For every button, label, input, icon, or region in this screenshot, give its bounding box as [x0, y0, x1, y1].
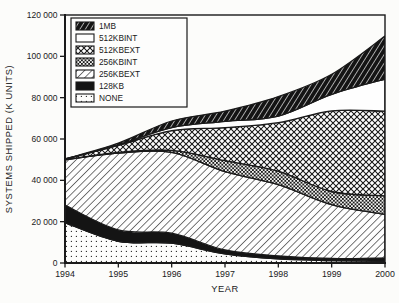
stacked-area-chart: 020 00040 00060 00080 000100 000120 0001…: [0, 0, 399, 303]
y-tick-label: 20 000: [32, 217, 58, 227]
x-tick-label: 2000: [375, 269, 395, 279]
y-axis-title: SYSTEMS SHIPPED (K UNITS): [4, 65, 14, 213]
y-axis-ticks: 020 00040 00060 00080 000100 000120 000: [27, 10, 65, 268]
legend-swatch-512kbext: [76, 46, 94, 54]
legend-label-256kbext: 256KBEXT: [99, 69, 140, 79]
y-tick-label: 80 000: [32, 93, 58, 103]
legend-swatch-none: [76, 94, 94, 102]
y-tick-label: 120 000: [27, 10, 58, 20]
x-tick-label: 1996: [162, 269, 182, 279]
legend-label-512kbint: 512KBINT: [99, 33, 137, 43]
legend-label-256kbint: 256KBINT: [99, 57, 137, 67]
x-axis-ticks: 1994199519961997199819992000: [55, 263, 395, 279]
x-tick-label: 1998: [269, 269, 289, 279]
y-tick-label: 100 000: [27, 51, 58, 61]
y-tick-label: 0: [53, 258, 58, 268]
legend-label-none: NONE: [99, 93, 123, 103]
legend-swatch-512kbint: [76, 34, 94, 42]
legend-label-1mb: 1MB: [99, 21, 117, 31]
x-tick-label: 1997: [215, 269, 235, 279]
stacked-area-figure: 020 00040 00060 00080 000100 000120 0001…: [0, 0, 399, 303]
legend-label-512kbext: 512KBEXT: [99, 45, 140, 55]
y-tick-label: 60 000: [32, 134, 58, 144]
legend-swatch-128kb: [76, 82, 94, 90]
x-axis-title: YEAR: [211, 284, 239, 294]
legend: 1MB512KBINT512KBEXT256KBINT256KBEXT128KB…: [71, 18, 187, 107]
legend-swatch-1mb: [76, 22, 94, 30]
x-tick-label: 1994: [55, 269, 75, 279]
x-tick-label: 1995: [109, 269, 129, 279]
legend-label-128kb: 128KB: [99, 81, 124, 91]
legend-swatch-256kbint: [76, 58, 94, 66]
legend-swatch-256kbext: [76, 70, 94, 78]
x-tick-label: 1999: [322, 269, 342, 279]
y-tick-label: 40 000: [32, 175, 58, 185]
